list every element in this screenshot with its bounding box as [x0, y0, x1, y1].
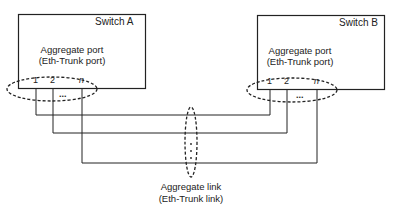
diagram-canvas: [0, 0, 397, 211]
switch-a-port-label-sub: (Eth-Trunk port): [33, 55, 111, 66]
switch-a-port-label: Aggregate port: [37, 44, 107, 55]
switch-a-port-n: n: [79, 75, 84, 85]
link-lines: [36, 89, 317, 163]
switch-b-port-n: n: [314, 76, 319, 86]
link-dots: [190, 143, 192, 159]
switch-b-port-1: 1: [267, 76, 272, 86]
switch-b-port-label: Aggregate port: [265, 45, 335, 56]
switch-a-port-2: 2: [50, 75, 55, 85]
switch-a-ellipsis: ...: [59, 89, 67, 99]
switch-b-title: Switch B: [339, 17, 378, 28]
aggregate-link-label: Aggregate link: [156, 181, 226, 192]
switch-a-port-1: 1: [33, 75, 38, 85]
switch-b-port-2: 2: [284, 76, 289, 86]
aggregate-link-label-sub: (Eth-Trunk link): [152, 193, 230, 204]
switch-b-ellipsis: ...: [296, 90, 304, 100]
switch-a-title: Switch A: [95, 16, 133, 27]
switch-b-port-label-sub: (Eth-Trunk port): [261, 56, 339, 67]
aggregate-link-ellipse: [185, 107, 197, 177]
